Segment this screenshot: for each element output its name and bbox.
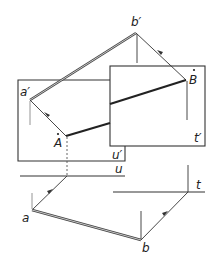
label-a: a (22, 211, 29, 225)
segment-plane-to-B (110, 80, 186, 104)
segment-A-to-plane (66, 123, 110, 136)
projector-t-b (141, 192, 188, 240)
label-u-prime: u′ (112, 148, 123, 162)
point-B-dot (193, 69, 195, 71)
label-a-prime: a′ (20, 85, 30, 99)
projector-a-prime-A (30, 100, 66, 136)
projector-b-prime-B (136, 33, 186, 80)
label-t-prime: t′ (194, 131, 202, 145)
projection-diagram: b′ a′ A B u′ t′ u t a b (0, 0, 221, 269)
arrow-icon (157, 50, 163, 55)
label-u: u (115, 162, 123, 176)
label-b-prime: b′ (131, 15, 142, 29)
point-A-dot (57, 133, 59, 135)
plane-u-prime-frame (18, 80, 125, 161)
segment-inner-highlight (32, 210, 141, 240)
arrow-icon (47, 189, 53, 194)
label-b: b (142, 241, 150, 255)
label-t: t (196, 178, 202, 192)
label-B: B (189, 73, 197, 87)
label-A: A (53, 136, 62, 150)
